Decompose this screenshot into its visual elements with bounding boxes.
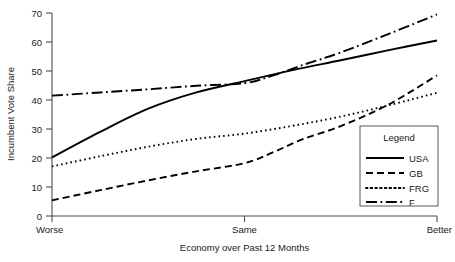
x-tick-label-better: Better (427, 224, 452, 235)
y-axis-ticks (46, 13, 52, 216)
y-tick-label-70: 70 (31, 8, 42, 19)
legend-title: Legend (383, 132, 415, 143)
y-tick-label-30: 30 (31, 124, 42, 135)
x-axis-title: Economy over Past 12 Months (180, 242, 310, 253)
legend-label-frg[interactable]: FRG (409, 183, 429, 194)
legend-label-gb[interactable]: GB (409, 168, 423, 179)
y-axis-title: Incumbent Vote Share (5, 67, 16, 161)
line-chart: 70 60 50 40 30 20 10 0 Worse Same Better… (0, 0, 455, 262)
chart-figure: 70 60 50 40 30 20 10 0 Worse Same Better… (0, 0, 455, 262)
legend-label-usa[interactable]: USA (409, 153, 429, 164)
y-tick-label-60: 60 (31, 37, 42, 48)
y-tick-label-10: 10 (31, 182, 42, 193)
y-tick-label-20: 20 (31, 153, 42, 164)
x-tick-label-same: Same (232, 224, 257, 235)
chart-legend[interactable]: Legend USA GB FRG F (360, 126, 438, 208)
x-tick-label-worse: Worse (36, 224, 63, 235)
y-tick-label-0: 0 (37, 211, 42, 222)
legend-label-f[interactable]: F (409, 197, 415, 208)
y-tick-label-40: 40 (31, 95, 42, 106)
y-tick-label-50: 50 (31, 66, 42, 77)
x-axis-ticks (52, 216, 437, 222)
series-line-f (52, 14, 437, 95)
